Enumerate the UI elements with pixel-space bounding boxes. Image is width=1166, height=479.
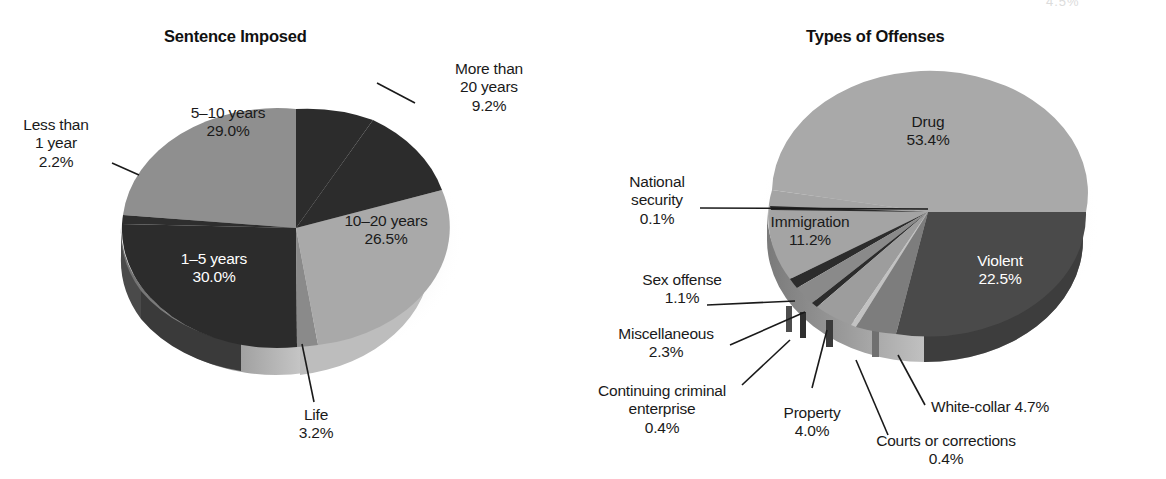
label-line: 1 year: [0, 134, 112, 152]
label-value: 22.5%: [948, 270, 1052, 288]
label-line: 1–5 years: [152, 250, 276, 268]
label-value: 0.4%: [578, 419, 746, 437]
label-drug: Drug 53.4%: [872, 113, 984, 150]
label-value: 26.5%: [322, 230, 450, 248]
label-continuing-criminal-enterprise: Continuing criminal enterprise 0.4%: [578, 382, 746, 437]
label-line: enterprise: [578, 400, 746, 418]
label-value: 29.0%: [163, 122, 293, 140]
label-line: Life: [281, 406, 351, 424]
label-value: 30.0%: [152, 268, 276, 286]
label-line: Miscellaneous: [601, 325, 731, 343]
label-line: 20 years: [414, 78, 564, 96]
label-value: 0.4%: [846, 450, 1046, 468]
label-line: security: [611, 191, 703, 209]
label-immigration: Immigration 11.2%: [747, 213, 873, 250]
label-line: Drug: [872, 113, 984, 131]
label-courts-or-corrections: Courts or corrections 0.4%: [846, 432, 1046, 469]
left-chart-title: Sentence Imposed: [164, 27, 307, 46]
label-line: Sex offense: [627, 271, 737, 289]
label-line: Less than: [0, 116, 112, 134]
label-line: Continuing criminal: [578, 382, 746, 400]
label-line: 5–10 years: [163, 104, 293, 122]
label-life: Life 3.2%: [281, 406, 351, 443]
label-less-than-1-year: Less than 1 year 2.2%: [0, 116, 112, 171]
label-line: Courts or corrections: [846, 432, 1046, 450]
label-value: 9.2%: [414, 97, 564, 115]
label-more-than-20-years: More than 20 years 9.2%: [414, 60, 564, 115]
label-value: 1.1%: [627, 289, 737, 307]
right-chart-title: Types of Offenses: [806, 27, 944, 46]
label-value: 3.2%: [281, 424, 351, 442]
label-white-collar: White-collar 4.7%: [931, 398, 1141, 416]
label-value: 2.3%: [601, 343, 731, 361]
label-1-5-years: 1–5 years 30.0%: [152, 250, 276, 287]
label-10-20-years: 10–20 years 26.5%: [322, 212, 450, 249]
label-line: White-collar 4.7%: [931, 398, 1141, 416]
figure-root: 4.5%: [0, 0, 1166, 479]
label-line: 10–20 years: [322, 212, 450, 230]
right-pie-slices: [768, 71, 1088, 337]
label-line: National: [611, 173, 703, 191]
label-value: 11.2%: [747, 231, 873, 249]
label-sex-offense: Sex offense 1.1%: [627, 271, 737, 308]
label-line: More than: [414, 60, 564, 78]
label-line: Property: [757, 404, 867, 422]
label-violent: Violent 22.5%: [948, 252, 1052, 289]
label-value: 0.1%: [611, 210, 703, 228]
label-line: Immigration: [747, 213, 873, 231]
label-national-security: National security 0.1%: [611, 173, 703, 228]
label-value: 2.2%: [0, 153, 112, 171]
label-value: 53.4%: [872, 131, 984, 149]
label-line: Violent: [948, 252, 1052, 270]
label-5-10-years: 5–10 years 29.0%: [163, 104, 293, 141]
label-miscellaneous: Miscellaneous 2.3%: [601, 325, 731, 362]
